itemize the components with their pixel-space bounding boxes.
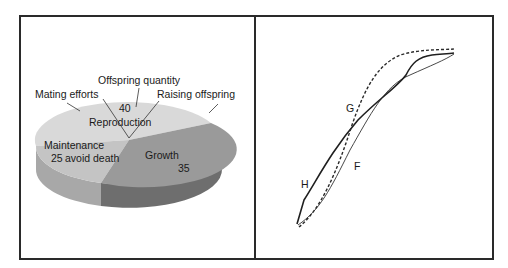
label-growth: Growth bbox=[145, 149, 179, 161]
label-curve-g: G bbox=[346, 102, 354, 114]
curve-chart: G F H bbox=[297, 49, 454, 227]
label-raising-offspring: Raising offspring bbox=[157, 88, 235, 100]
label-mating-efforts: Mating efforts bbox=[35, 88, 98, 100]
label-reproduction: Reproduction bbox=[89, 116, 152, 128]
label-maintenance: Maintenance bbox=[44, 139, 104, 151]
label-curve-f: F bbox=[354, 160, 360, 172]
curve-h bbox=[297, 53, 454, 224]
label-offspring-quantity: Offspring quantity bbox=[98, 74, 181, 86]
label-growth-value: 35 bbox=[178, 162, 190, 174]
label-maintenance-value: 25 bbox=[51, 152, 63, 164]
label-avoid-death: avoid death bbox=[65, 152, 119, 164]
label-reproduction-value: 40 bbox=[119, 102, 131, 114]
label-curve-h: H bbox=[301, 178, 309, 190]
leader-raising bbox=[209, 104, 218, 113]
pie-chart: Offspring quantity Mating efforts Raisin… bbox=[35, 74, 237, 208]
figure-canvas: Offspring quantity Mating efforts Raisin… bbox=[0, 0, 508, 268]
